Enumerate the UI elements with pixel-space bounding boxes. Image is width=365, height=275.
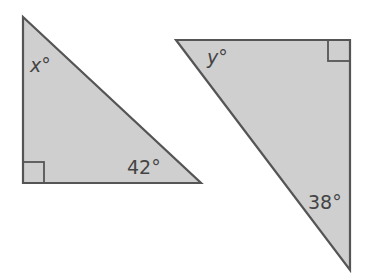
angle-label-y: y° <box>206 46 228 68</box>
angle-label-38: 38° <box>308 191 342 213</box>
left-triangle-shape <box>23 17 201 183</box>
right-triangle: y° 38° <box>176 40 350 270</box>
angle-label-42: 42° <box>127 156 161 178</box>
triangles-diagram: x° 42° y° 38° <box>0 0 365 275</box>
right-triangle-shape <box>176 40 350 270</box>
left-triangle: x° 42° <box>23 17 201 183</box>
angle-label-x: x° <box>29 54 51 76</box>
